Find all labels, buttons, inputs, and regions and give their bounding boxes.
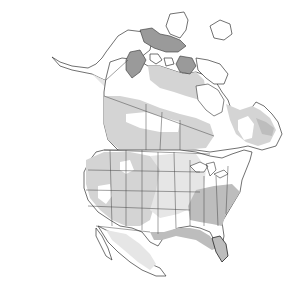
- range-map: [0, 0, 303, 283]
- ellesmere-island: [166, 12, 188, 38]
- arctic-islands-dark-3: [176, 56, 196, 74]
- arctic-small-islands: [150, 54, 174, 66]
- greenland-edge: [210, 20, 232, 40]
